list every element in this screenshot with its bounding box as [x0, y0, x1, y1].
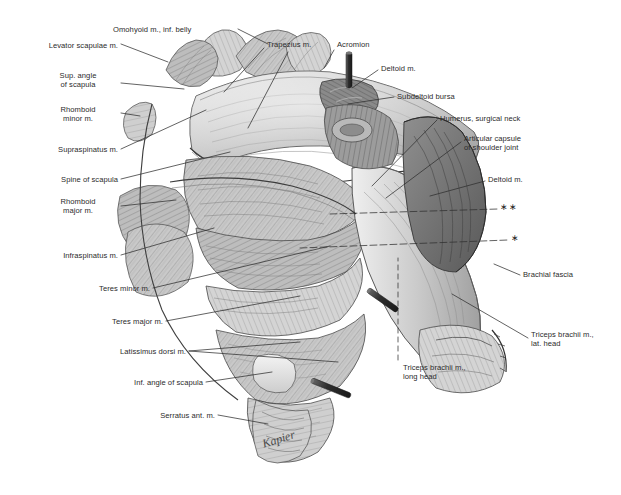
- label-rhomboid-major: Rhomboid major m.: [38, 197, 118, 216]
- label-spine-scapula: Spine of scapula: [0, 175, 118, 184]
- label-sup-angle: Sup. angle of scapula: [38, 71, 118, 90]
- label-supraspinatus: Supraspinatus m.: [0, 145, 118, 154]
- marker-double-asterisk: ∗∗: [500, 203, 518, 212]
- label-deltoid-upper: Deltoid m.: [381, 64, 416, 73]
- label-teres-minor: Teres minor m.: [0, 284, 150, 293]
- label-articular-capsule: Articular capsule of shoulder joint: [464, 134, 521, 153]
- label-triceps-lat-head: Triceps brachii m., lat. head: [531, 330, 594, 349]
- anatomy-plate: Omohyoid m., inf. belly Levator scapulae…: [0, 0, 621, 495]
- probe-acromion: [346, 51, 352, 88]
- label-latissimus-dorsi: Latissimus dorsi m.: [0, 347, 186, 356]
- label-acromion: Acromion: [337, 40, 369, 49]
- label-teres-major: Teres major m.: [0, 317, 163, 326]
- label-rhomboid-minor: Rhomboid minor m.: [38, 105, 118, 124]
- label-infraspinatus: Infraspinatus m.: [0, 251, 118, 260]
- label-serratus: Serratus ant. m.: [0, 411, 215, 420]
- label-deltoid-lower: Deltoid m.: [488, 175, 523, 184]
- marker-single-asterisk: ∗: [511, 234, 520, 243]
- label-humerus-neck: Humerus, surgical neck: [440, 114, 520, 123]
- label-triceps-long-head: Triceps brachii m., long head: [403, 363, 466, 382]
- label-levator-scapulae: Levator scapulae m.: [0, 41, 118, 50]
- label-omohyoid: Omohyoid m., inf. belly: [113, 25, 191, 34]
- label-trapezius: Trapezius m.: [267, 40, 311, 49]
- label-brachial-fascia: Brachial fascia: [523, 270, 573, 279]
- label-inf-angle: Inf. angle of scapula: [0, 378, 203, 387]
- label-subdeltoid-bursa: Subdeltoid bursa: [397, 92, 455, 101]
